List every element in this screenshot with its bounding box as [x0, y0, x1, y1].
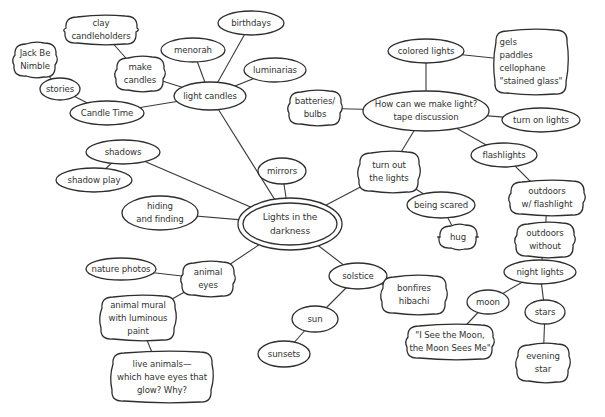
node-label-outdoors-flashlight: outdoors w/ flashlight — [521, 185, 572, 211]
node-label-bonfires-hibachi: bonfires hibachi — [397, 282, 431, 308]
node-label-stories: stories — [46, 83, 74, 96]
node-label-make-candles: make candles — [124, 61, 156, 87]
node-label-mirrors: mirrors — [267, 165, 297, 178]
node-label-being-scared: being scared — [414, 199, 468, 212]
node-label-moon: moon — [476, 296, 500, 309]
node-label-evening-star: evening star — [526, 350, 560, 376]
node-label-shadows: shadows — [105, 146, 142, 159]
node-label-jack-be-nimble: Jack Be Nimble — [20, 47, 51, 73]
node-label-solstice: solstice — [342, 270, 374, 283]
node-label-animal-mural: animal mural with luminous paint — [109, 299, 168, 338]
node-label-shadow-play: shadow play — [68, 174, 121, 187]
node-label-colored-lights: colored lights — [398, 45, 455, 58]
node-label-menorah: menorah — [174, 44, 212, 57]
node-label-candle-time: Candle Time — [81, 107, 134, 120]
node-label-sunsets: sunsets — [268, 348, 300, 361]
node-label-birthdays: birthdays — [231, 17, 271, 30]
node-label-light-candles: light candles — [183, 90, 237, 103]
node-label-hug: hug — [450, 231, 466, 244]
node-label-batteries-bulbs: batteries/ bulbs — [295, 95, 335, 121]
node-label-flashlights: flashlights — [482, 149, 525, 162]
node-label-sun: sun — [307, 313, 322, 326]
node-label-turn-on-lights: turn on lights — [513, 114, 569, 127]
node-label-clay-candleholders: clay candleholders — [71, 17, 130, 43]
node-label-outdoors-without: outdoors without — [526, 227, 563, 253]
node-label-stars: stars — [535, 306, 556, 319]
node-label-live-animals: live animals— which have eyes that glow?… — [117, 358, 207, 397]
node-label-turn-out-the-lights: turn out the lights — [369, 159, 408, 185]
node-label-hiding-and-finding: hiding and finding — [136, 200, 183, 226]
node-label-luminarias: luminarias — [253, 64, 297, 77]
node-label-animal-eyes: animal eyes — [194, 266, 223, 292]
node-label-gels-list: gels paddles cellophane "stained glass" — [500, 36, 563, 88]
node-label-center: Lights in the darkness — [263, 210, 318, 238]
node-label-night-lights: night lights — [516, 266, 563, 279]
node-label-nature-photos: nature photos — [92, 263, 151, 276]
node-label-i-see-the-moon: "I See the Moon, the Moon Sees Me" — [409, 329, 490, 355]
node-label-how-can-we-make-light: How can we make light? tape discussion — [375, 98, 477, 124]
